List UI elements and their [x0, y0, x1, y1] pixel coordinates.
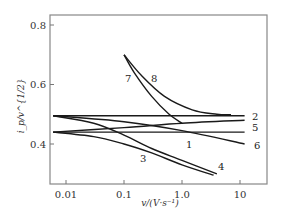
curve-8 [124, 55, 231, 115]
y-tick-label: 0.4 [30, 139, 46, 150]
plot-frame [50, 15, 267, 184]
curve-label-1: 1 [186, 139, 192, 150]
y-axis-title: i_p/v^{1/2} [16, 79, 27, 134]
curve-label-4: 4 [218, 161, 224, 172]
curve-5 [53, 120, 245, 132]
y-tick-label: 0.6 [30, 79, 46, 90]
y-tick-label: 0.8 [30, 20, 46, 31]
curve-label-3: 3 [140, 153, 146, 164]
chart: 0.010.11.0100.40.60.8 12345678 v/(V·s⁻¹)… [0, 0, 284, 220]
curve-label-6: 6 [254, 140, 260, 151]
x-axis-title: v/(V·s⁻¹) [141, 198, 179, 208]
curve-label-8: 8 [151, 73, 157, 84]
x-tick-label: 10 [234, 189, 247, 200]
x-tick-label: 0.01 [55, 189, 77, 200]
curve-label-7: 7 [125, 73, 131, 84]
curve-label-2: 2 [252, 111, 258, 122]
x-tick-label: 0.1 [116, 189, 132, 200]
curve-label-5: 5 [252, 122, 258, 133]
